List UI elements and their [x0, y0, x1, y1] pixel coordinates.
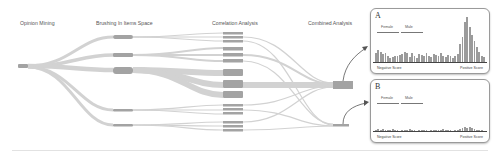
histogram-panel-a: A Female Male Negative Score Positive Sc…: [370, 8, 490, 74]
legend-female-bar: [377, 103, 399, 104]
legend-female-label: Female: [381, 96, 393, 100]
score-axis: [373, 131, 487, 132]
legend-male-label: Male: [405, 96, 413, 100]
negative-score-label: Negative Score: [377, 135, 402, 139]
histogram-a: [375, 17, 485, 63]
positive-score-label: Positive Score: [460, 135, 483, 139]
histogram-b: [375, 110, 485, 132]
legend-male-bar: [401, 103, 423, 104]
bottom-divider: [12, 150, 488, 151]
negative-score-label: Negative Score: [377, 66, 402, 70]
score-axis: [373, 62, 487, 63]
histogram-panel-b: B Female Male Negative Score Positive Sc…: [370, 79, 490, 143]
positive-score-label: Positive Score: [460, 66, 483, 70]
panel-letter: B: [375, 82, 380, 91]
